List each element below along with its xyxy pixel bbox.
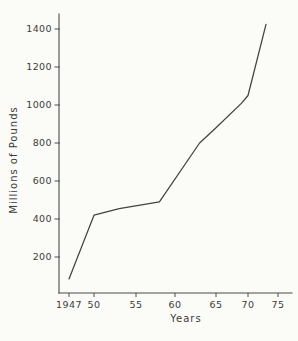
y-tick-label: 1400 (26, 23, 52, 34)
y-tick-label: 1200 (26, 61, 52, 72)
x-tick-label: 50 (88, 299, 101, 310)
x-tick-label: 1947 (56, 299, 82, 310)
chart-figure: 200400600800100012001400 194750556065707… (0, 0, 298, 341)
x-tick-label: 60 (169, 299, 182, 310)
x-tick-label: 75 (272, 299, 285, 310)
y-axis-ticks: 200400600800100012001400 (26, 23, 60, 262)
line-chart: 200400600800100012001400 194750556065707… (0, 0, 298, 341)
x-axis-ticks: 1947505560657075 (56, 293, 284, 310)
y-tick-label: 200 (33, 251, 52, 262)
x-tick-label: 55 (130, 299, 143, 310)
y-tick-label: 1000 (26, 99, 52, 110)
y-tick-label: 800 (33, 137, 52, 148)
x-tick-label: 70 (242, 299, 255, 310)
data-series-line (69, 24, 266, 279)
y-tick-label: 600 (33, 175, 52, 186)
x-tick-label: 65 (210, 299, 223, 310)
x-axis-title: Years (169, 313, 201, 324)
y-tick-label: 400 (33, 213, 52, 224)
y-axis-title: Millions of Pounds (8, 106, 19, 213)
